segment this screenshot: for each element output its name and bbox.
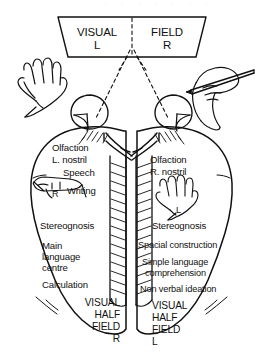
simple-language-line1: Simple language [142,258,208,268]
main-language-line2: language [42,252,80,262]
left-hand-open-shape [18,58,67,117]
left-vhf-line3: FIELD [52,321,120,332]
simple-language-line2: comprehension [145,269,206,279]
visual-field-left-label: VISUAL [68,26,126,38]
left-olfaction-label: Olfaction [52,143,89,153]
spacial-construction-label: Spacial construction [138,241,217,251]
right-hand-writing-shape [186,67,254,130]
left-eye [71,95,108,131]
right-vhf-line4: L [152,336,220,347]
main-language-line1: Main [42,241,62,251]
right-stereognosis-label: Stereognosis [152,221,206,231]
left-stereognosis-label: Stereognosis [40,221,94,231]
right-nostril-label: R. nostril [150,167,186,177]
right-vhf-line3: FIELD [152,324,220,335]
right-eye [155,95,192,131]
speech-label: Speech [63,168,95,178]
right-vhf-line1: VISUAL [152,300,220,311]
left-vhf-line2: HALF [52,309,120,320]
frontal-notch-right [217,175,230,178]
left-nostril-label: L. nostril [52,155,87,165]
diagram-linework [0,0,263,358]
left-tract-hatching [111,163,125,294]
visual-field-right-side: R [139,39,195,51]
visual-field-left-side: L [68,39,126,51]
calculation-label: Calculation [42,280,88,290]
right-vhf-line2: HALF [152,312,220,323]
writing-label: Writing [67,186,96,196]
visual-field-right-label: FIELD [139,26,195,38]
inner-left-hand-label: L [176,206,181,216]
left-vhf-line1: VISUAL [52,297,120,308]
brain-lateralization-diagram: · · · · · · · [0,0,263,358]
left-vhf-line4: R [52,333,120,344]
main-language-line3: centre [42,263,68,273]
non-verbal-ideation-label: Non verbal ideation [140,285,216,295]
inner-right-hand-label: R [52,190,58,200]
right-olfaction-label: Olfaction [150,155,187,165]
